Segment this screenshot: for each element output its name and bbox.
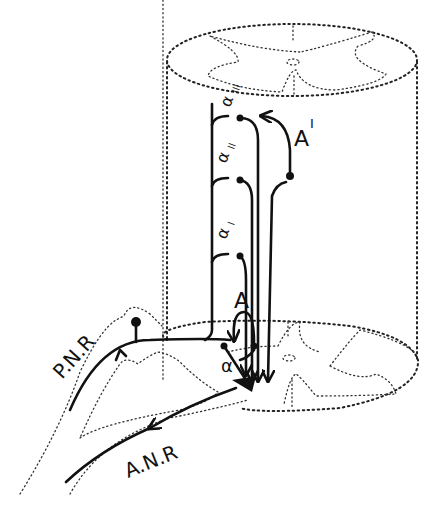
label-A-prime-mark: I (310, 116, 314, 131)
label-alpha3: α (216, 93, 237, 109)
neuron-fibres (66, 104, 294, 482)
label-alpha2: α (212, 149, 233, 165)
label-alpha: α (221, 355, 233, 376)
cord-cylinder (163, 24, 418, 411)
labels: P.N.R A.N.R A A I α α I α II α III (48, 83, 314, 483)
label-alpha1: α (212, 225, 233, 241)
nerve-roots-outline (20, 0, 248, 494)
label-anr: A.N.R (121, 440, 181, 483)
label-A-prime: A (294, 126, 309, 151)
label-alpha1-mark: I (226, 220, 237, 227)
label-pnr: P.N.R (48, 330, 100, 384)
spinal-cord-diagram: P.N.R A.N.R A A I α α I α II α III (0, 0, 436, 522)
label-alpha2-mark: II (226, 141, 238, 150)
label-A: A (234, 288, 249, 313)
